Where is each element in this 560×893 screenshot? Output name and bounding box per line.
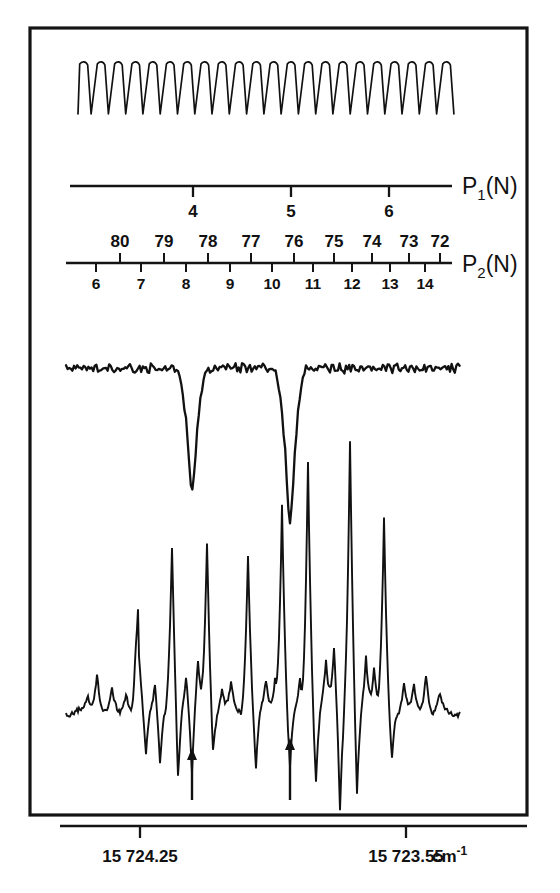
axis-p1: 456 P1(N) bbox=[70, 173, 518, 221]
spectroscopy-figure-svg: 456 P1(N) 807978777675747372 67891011121… bbox=[0, 0, 560, 893]
p1-tick-group: 456 bbox=[188, 186, 393, 221]
p2-label-tail: (N) bbox=[486, 251, 518, 277]
assignment-arrows bbox=[187, 738, 295, 800]
p2-upper-label-75: 75 bbox=[325, 232, 344, 251]
p2-lower-label-8: 8 bbox=[182, 275, 191, 292]
wavenumber-tick-label-1: 15 724.25 bbox=[102, 847, 178, 866]
axis-p2: 807978777675747372 67891011121314 P2(N) bbox=[66, 232, 518, 292]
figure-root: 456 P1(N) 807978777675747372 67891011121… bbox=[0, 0, 560, 893]
p1-tick-label-4: 4 bbox=[188, 202, 198, 221]
p1-tick-label-6: 6 bbox=[384, 202, 393, 221]
p2-upper-label-72: 72 bbox=[431, 232, 450, 251]
p2-lower-label-7: 7 bbox=[137, 275, 146, 292]
p2-upper-label-73: 73 bbox=[400, 232, 419, 251]
p2-upper-label-76: 76 bbox=[285, 232, 304, 251]
p2-lower-label-6: 6 bbox=[92, 275, 101, 292]
p2-upper-label-78: 78 bbox=[199, 232, 218, 251]
p1-label-main: P bbox=[462, 173, 477, 199]
etalon-fringe-trace bbox=[78, 62, 454, 114]
p1-tick-label-5: 5 bbox=[286, 202, 295, 221]
wavenumber-tick-group: 15 724.2515 723.55 bbox=[102, 826, 444, 866]
assignment-arrow-head-2 bbox=[285, 738, 295, 750]
p1-label-tail: (N) bbox=[486, 173, 518, 199]
excitation-spectrum-trace bbox=[66, 441, 460, 810]
p2-upper-label-80: 80 bbox=[111, 232, 130, 251]
wavenumber-axis: 15 724.2515 723.55 cm-1 bbox=[60, 826, 527, 866]
p2-lower-label-14: 14 bbox=[416, 275, 434, 292]
p2-lower-tick-group: 67891011121314 bbox=[92, 263, 434, 292]
p2-lower-label-10: 10 bbox=[263, 275, 280, 292]
wavenumber-unit-superscript: -1 bbox=[457, 844, 468, 858]
p2-axis-label: P2(N) bbox=[462, 251, 518, 281]
p2-upper-label-77: 77 bbox=[242, 232, 261, 251]
p2-upper-label-74: 74 bbox=[363, 232, 382, 251]
p2-lower-label-13: 13 bbox=[381, 275, 399, 292]
p2-label-sub: 2 bbox=[477, 264, 485, 281]
p2-upper-tick-group: 807978777675747372 bbox=[111, 232, 450, 263]
wavenumber-unit-label: cm-1 bbox=[432, 844, 468, 866]
assignment-arrow-head-1 bbox=[187, 748, 197, 760]
reference-absorption-trace bbox=[66, 363, 460, 523]
p2-lower-label-12: 12 bbox=[343, 275, 360, 292]
p2-lower-label-9: 9 bbox=[226, 275, 235, 292]
figure-frame bbox=[30, 28, 527, 815]
p1-label-sub: 1 bbox=[477, 186, 485, 203]
p2-lower-label-11: 11 bbox=[305, 275, 322, 292]
p2-label-main: P bbox=[462, 251, 477, 277]
p1-axis-label: P1(N) bbox=[462, 173, 518, 203]
p2-upper-label-79: 79 bbox=[155, 232, 174, 251]
wavenumber-unit-main: cm bbox=[432, 847, 457, 866]
